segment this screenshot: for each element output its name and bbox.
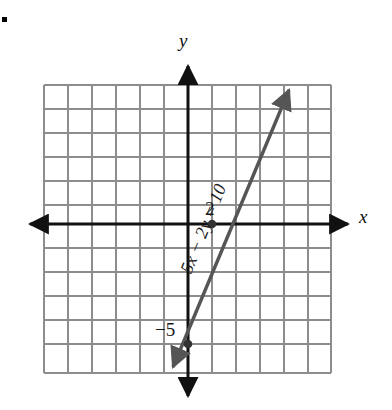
data-line bbox=[173, 90, 289, 367]
coordinate-plane bbox=[0, 0, 392, 410]
y-axis-label: y bbox=[179, 30, 187, 52]
graph-figure: y x 2 −5 5x − 2y = 10 bbox=[0, 0, 392, 410]
y-intercept-label: −5 bbox=[155, 319, 175, 341]
point-y-intercept bbox=[184, 340, 193, 349]
x-axis-label: x bbox=[359, 206, 367, 228]
